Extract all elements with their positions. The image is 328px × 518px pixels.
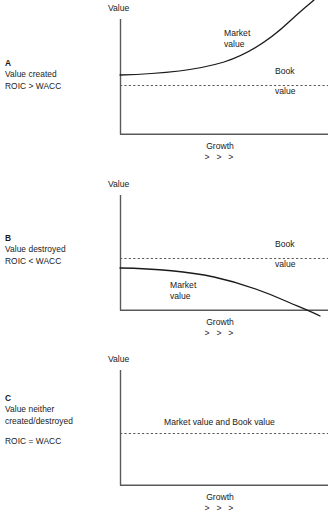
panel-c-svg [0,351,328,518]
panel-a-market-value-label-line2: value [224,39,250,50]
panel-b-market-value-label-line1: Market [170,280,196,291]
panel-a-x-axis-arrows: > > > [185,152,255,163]
panel-b-x-axis-label-text: Growth [206,317,234,327]
panel-a-book-value-label: Book value [275,66,296,96]
panel-c-combined-value-label: Market value and Book value [164,417,275,427]
panel-c-plot [0,351,328,518]
panel-a-market-value-label-line1: Market [224,28,250,39]
panel-b-book-value-label: Book value [275,239,296,269]
panel-b: B Value destroyed ROIC < WACC Value Book… [0,176,328,351]
panel-c: C Value neither created/destroyed ROIC =… [0,351,328,518]
panel-c-x-axis-arrows: > > > [185,503,255,514]
panel-a-book-value-label-line2: value [275,86,296,97]
panel-c-x-axis-label: Growth > > > [185,492,255,514]
panel-c-x-axis-label-text: Growth [206,492,234,502]
panel-a-y-axis-label: Value [108,3,129,13]
panel-b-market-value-label-line2: value [170,291,196,302]
panel-b-book-value-label-line1: Book [275,239,296,250]
panel-b-x-axis-label: Growth > > > [185,317,255,339]
panel-a-x-axis-label-text: Growth [206,141,234,151]
panel-b-x-axis-arrows: > > > [185,328,255,339]
panel-b-y-axis-label: Value [108,179,129,189]
panel-a-x-axis-label: Growth > > > [185,141,255,163]
panel-a-market-value-label: Market value [224,28,250,49]
panel-a-market-value-curve [120,0,314,75]
panel-b-book-value-label-line2: value [275,259,296,270]
panel-a-book-value-label-line1: Book [275,66,296,77]
panel-b-market-value-curve [120,268,320,316]
panel-c-y-axis-label: Value [108,354,129,364]
panel-a: A Value created ROIC > WACC Value Market… [0,0,328,175]
panel-b-market-value-label: Market value [170,280,196,301]
